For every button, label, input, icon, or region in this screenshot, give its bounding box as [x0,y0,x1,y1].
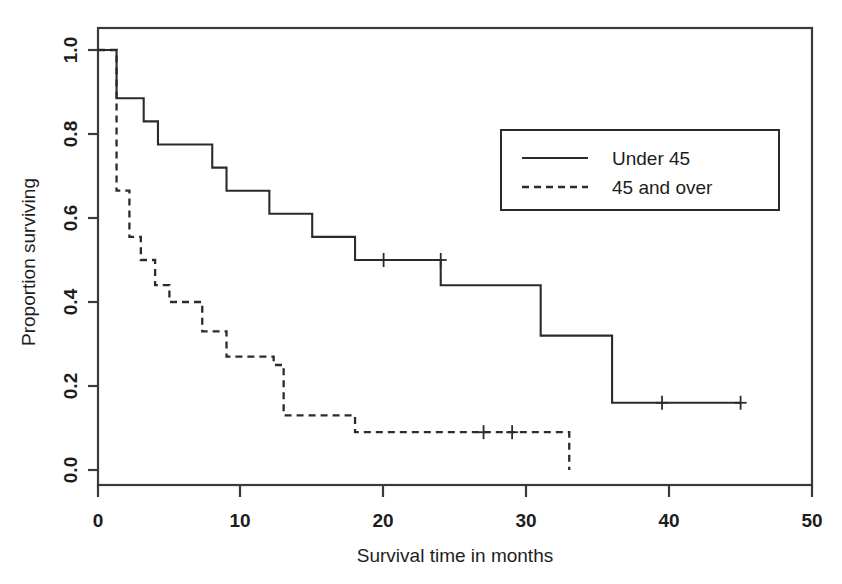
x-axis-tick-labels: 0 10 20 30 40 50 [93,510,823,531]
x-tick-label-10: 10 [229,510,250,531]
x-axis-ticks [98,485,812,497]
x-tick-label-40: 40 [658,510,679,531]
legend-label-under-45: Under 45 [612,148,690,169]
x-tick-label-50: 50 [801,510,822,531]
x-tick-label-0: 0 [93,510,104,531]
curve-under-45 [98,50,741,403]
y-axis-ticks [88,50,98,470]
y-axis-tick-labels: 1.0 0.8 0.6 0.4 0.2 0.0 [60,37,81,483]
legend-box [501,130,779,210]
survival-chart-figure: 1.0 0.8 0.6 0.4 0.2 0.0 Proportion survi… [0,0,842,584]
y-tick-label-0.4: 0.4 [60,288,81,315]
curve-45-and-over [98,50,569,470]
x-tick-label-20: 20 [372,510,393,531]
y-axis-title: Proportion surviving [18,178,39,346]
x-axis-title: Survival time in months [357,545,553,566]
y-tick-label-0.0: 0.0 [60,457,81,483]
legend-label-45-and-over: 45 and over [612,177,713,198]
x-tick-label-30: 30 [515,510,536,531]
y-tick-label-0.2: 0.2 [60,373,81,399]
y-tick-label-0.6: 0.6 [60,205,81,231]
survival-chart-svg: 1.0 0.8 0.6 0.4 0.2 0.0 Proportion survi… [0,0,842,584]
y-tick-label-0.8: 0.8 [60,121,81,147]
censor-marks-under-45 [378,253,747,410]
y-tick-label-1.0: 1.0 [60,37,81,63]
plot-frame [98,28,812,485]
legend: Under 45 45 and over [501,130,779,210]
series-group [98,50,747,470]
